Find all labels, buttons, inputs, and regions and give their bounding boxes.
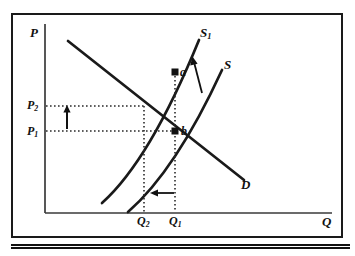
price-tick-p2-sub: 2 — [34, 104, 38, 113]
quantity-tick-q2-text: Q — [137, 214, 146, 228]
point-label-a: a — [180, 66, 186, 78]
quantity-tick-q2-sub: 2 — [146, 220, 150, 229]
curve-label-d: D — [241, 178, 250, 191]
quantity-tick-q1: Q1 — [169, 215, 182, 229]
x-axis-label: Q — [322, 215, 331, 228]
curve-label-s: S — [224, 58, 231, 71]
point-label-b: b — [181, 125, 187, 137]
y-axis-label: P — [30, 26, 38, 39]
page-divider-rule — [11, 244, 350, 249]
point-marker-b — [172, 128, 179, 135]
curve-label-s1: S1 — [200, 26, 211, 40]
demand-curve — [68, 41, 244, 180]
quantity-tick-q1-text: Q — [169, 214, 178, 228]
price-tick-p1-sub: 1 — [34, 130, 38, 139]
point-marker-a — [172, 69, 179, 76]
figure-page: P Q S1 S D a b P2 P1 Q2 Q1 — [0, 0, 355, 256]
price-tick-p2: P2 — [27, 99, 38, 113]
quantity-tick-q2: Q2 — [137, 215, 150, 229]
price-tick-p1: P1 — [27, 125, 38, 139]
quantity-tick-q1-sub: 1 — [178, 220, 182, 229]
supply-shift-arrow — [190, 57, 202, 94]
price-up-arrow — [63, 105, 70, 129]
quantity-left-arrow — [150, 189, 174, 196]
curve-label-s1-sub: 1 — [207, 31, 211, 41]
